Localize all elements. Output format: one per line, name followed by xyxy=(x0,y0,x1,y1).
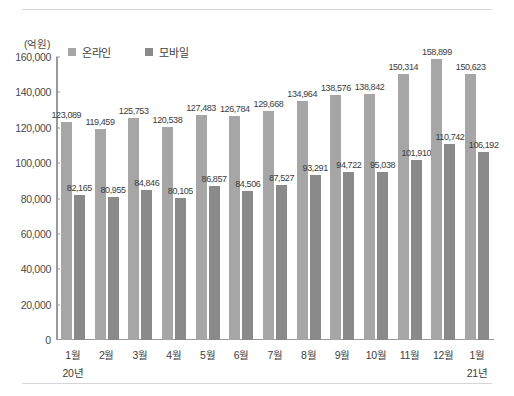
x-axis-tick-label: 6월 xyxy=(234,347,249,362)
bar-mobile[interactable]: 84,506 xyxy=(242,57,253,340)
y-axis-tick-label: 120,000 xyxy=(15,122,51,134)
bar-value-label: 80,955 xyxy=(100,185,125,195)
x-axis-tick-label: 4월 xyxy=(166,347,181,362)
legend-swatch-icon xyxy=(145,48,153,56)
x-axis-year-label: 20년 xyxy=(62,365,83,380)
bar-rect xyxy=(95,129,106,340)
bar-online[interactable]: 120,538 xyxy=(162,57,173,340)
bar-rect xyxy=(364,94,375,340)
bar-rect xyxy=(444,144,455,340)
bar-mobile[interactable]: 82,165 xyxy=(74,57,85,340)
y-axis-tick-label: 140,000 xyxy=(15,86,51,98)
bar-online[interactable]: 138,842 xyxy=(364,57,375,340)
bar-rect xyxy=(196,115,207,340)
bar-value-label: 106,192 xyxy=(469,140,499,150)
bar-online[interactable]: 138,576 xyxy=(330,57,341,340)
top-divider xyxy=(22,9,492,10)
x-axis-tick-label: 9월 xyxy=(335,347,350,362)
bar-rect xyxy=(398,74,409,340)
bar-mobile[interactable]: 94,722 xyxy=(343,57,354,340)
y-axis-unit-label: (억원) xyxy=(24,36,50,51)
bar-value-label: 82,165 xyxy=(67,183,92,193)
bar-mobile[interactable]: 95,038 xyxy=(377,57,388,340)
x-axis-tick-label: 1월 xyxy=(470,347,485,362)
bar-rect xyxy=(128,118,139,340)
bar-online[interactable]: 123,089 xyxy=(61,57,72,340)
x-axis-tick-label: 3월 xyxy=(133,347,148,362)
bar-group: 158,899110,742 xyxy=(427,57,461,340)
bar-rect xyxy=(175,198,186,340)
bar-value-label: 158,899 xyxy=(422,47,452,57)
bar-online[interactable]: 158,899 xyxy=(431,57,442,340)
bar-group: 138,84295,038 xyxy=(359,57,393,340)
bar-group: 120,53880,105 xyxy=(157,57,191,340)
bar-mobile[interactable]: 87,527 xyxy=(276,57,287,340)
bar-value-label: 87,527 xyxy=(269,173,294,183)
bar-value-label: 80,105 xyxy=(168,186,193,196)
bar-online[interactable]: 134,964 xyxy=(297,57,308,340)
bar-online[interactable]: 126,784 xyxy=(229,57,240,340)
bar-value-label: 84,506 xyxy=(235,179,260,189)
bar-group: 138,57694,722 xyxy=(326,57,360,340)
x-axis-tick-label: 2월 xyxy=(99,347,114,362)
bar-rect xyxy=(74,195,85,340)
bar-group: 125,75384,846 xyxy=(123,57,157,340)
bar-rect xyxy=(330,95,341,340)
bar-group: 119,45980,955 xyxy=(90,57,124,340)
bar-rect xyxy=(465,74,476,340)
bar-mobile[interactable]: 84,846 xyxy=(141,57,152,340)
bar-mobile[interactable]: 110,742 xyxy=(444,57,455,340)
bar-rect xyxy=(209,186,220,340)
bar-rect xyxy=(297,101,308,340)
bar-mobile[interactable]: 80,955 xyxy=(108,57,119,340)
bar-rect xyxy=(263,111,274,340)
bar-online[interactable]: 150,314 xyxy=(398,57,409,340)
bar-rect xyxy=(431,59,442,340)
bar-value-label: 95,038 xyxy=(370,160,395,170)
bar-mobile[interactable]: 106,192 xyxy=(478,57,489,340)
y-axis-tick-label: 80,000 xyxy=(21,193,51,205)
bar-rect xyxy=(276,185,287,340)
bar-rect xyxy=(162,127,173,340)
y-axis-tick-label: 20,000 xyxy=(21,299,51,311)
bar-online[interactable]: 125,753 xyxy=(128,57,139,340)
y-axis-zero-label: 0 xyxy=(45,334,51,346)
bar-rect xyxy=(108,197,119,340)
bar-mobile[interactable]: 93,291 xyxy=(310,57,321,340)
bar-value-label: 93,291 xyxy=(303,163,328,173)
bottom-divider xyxy=(22,383,492,384)
x-axis-tick-label: 5월 xyxy=(200,347,215,362)
x-axis-tick-label: 8월 xyxy=(301,347,316,362)
bar-group: 134,96493,291 xyxy=(292,57,326,340)
x-axis-tick-label: 11월 xyxy=(400,347,420,362)
bar-rect xyxy=(377,172,388,340)
bar-rect xyxy=(229,116,240,340)
bar-group: 127,48386,857 xyxy=(191,57,225,340)
plot-area: 20,00040,00060,00080,000100,000120,00014… xyxy=(56,57,494,340)
x-axis-tick-label: 12월 xyxy=(433,347,454,362)
chart-figure: (억원) 온라인모바일 20,00040,00060,00080,000100,… xyxy=(0,0,514,396)
y-axis-tick-label: 160,000 xyxy=(15,51,51,63)
bar-online[interactable]: 119,459 xyxy=(95,57,106,340)
x-axis-tick-label: 1월 xyxy=(65,347,80,362)
bar-rect xyxy=(141,190,152,340)
bar-mobile[interactable]: 80,105 xyxy=(175,57,186,340)
bar-value-label: 86,857 xyxy=(202,174,227,184)
bar-rect xyxy=(310,175,321,340)
bar-online[interactable]: 129,668 xyxy=(263,57,274,340)
bar-online[interactable]: 127,483 xyxy=(196,57,207,340)
bar-rect xyxy=(343,172,354,340)
bar-group: 129,66887,527 xyxy=(258,57,292,340)
bar-group: 150,623106,192 xyxy=(460,57,494,340)
x-axis-tick-label: 10월 xyxy=(366,347,387,362)
bar-value-label: 84,846 xyxy=(134,178,159,188)
bar-mobile[interactable]: 86,857 xyxy=(209,57,220,340)
y-axis-tick-label: 60,000 xyxy=(21,228,51,240)
bar-group: 150,314101,910 xyxy=(393,57,427,340)
bar-group: 123,08982,165 xyxy=(56,57,90,340)
bar-rect xyxy=(61,122,72,340)
y-axis-tick-label: 40,000 xyxy=(21,263,51,275)
bar-online[interactable]: 150,623 xyxy=(465,57,476,340)
x-axis-tick-label: 7월 xyxy=(267,347,282,362)
bar-mobile[interactable]: 101,910 xyxy=(411,57,422,340)
